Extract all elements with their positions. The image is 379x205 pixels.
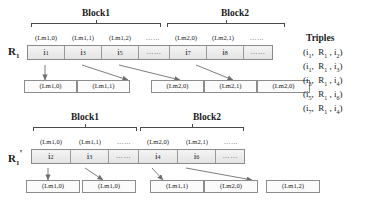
bottom-output-1[interactable]: (Lm1,0) <box>82 180 136 193</box>
bottom-block1-brace-tick <box>85 124 86 127</box>
top-cell-3[interactable]: …… <box>139 46 170 59</box>
bottom-cell-5-base: …… <box>223 153 238 160</box>
triple-1-subject-sub: 1 <box>309 67 312 73</box>
triple-2-subject-sub: 3 <box>309 81 312 87</box>
top-addr-1: (Lm1,1) <box>65 35 101 42</box>
bottom-output-2[interactable]: (Lm1,1) <box>150 180 204 193</box>
bottom-cell-4-sub: 6 <box>196 154 199 160</box>
triple-2-object-sub: 4 <box>337 81 340 87</box>
triple-3-subject-sub: 5 <box>309 95 312 101</box>
bottom-cell-2-base: …… <box>116 153 131 160</box>
bottom-addr-4: (Lm2,1) <box>178 139 216 146</box>
bottom-addr-3: (Lm2,0) <box>139 139 177 146</box>
bottom-addr-2: …… <box>110 139 138 146</box>
bottom-block2-brace <box>140 127 244 131</box>
triple-3-predicate-sub: 1 <box>324 95 327 101</box>
top-block2-brace-tick <box>226 20 227 23</box>
top-block1-brace <box>31 23 161 27</box>
top-cell-1-sub: 3 <box>83 50 86 56</box>
triples-title: Triples <box>306 33 334 43</box>
bottom-cell-2[interactable]: …… <box>109 150 139 163</box>
triple-3-object-sub: 6 <box>337 95 340 101</box>
bottom-block1-brace <box>33 127 137 131</box>
top-cell-6-base: …… <box>250 49 265 56</box>
top-cell-1[interactable]: i3 <box>65 46 102 59</box>
top-output-1[interactable]: (Lm1,1) <box>77 80 130 93</box>
bottom-cell-0[interactable]: i2 <box>32 150 71 163</box>
bottom-cell-4[interactable]: i6 <box>178 150 217 163</box>
bottom-row-label: R1' <box>8 149 22 167</box>
bottom-row-label-sub: 1 <box>16 159 20 167</box>
triple-row-0: (i1, R1 , i2) <box>303 48 343 59</box>
bottom-cell-5[interactable]: …… <box>216 150 244 163</box>
bottom-row-strip[interactable]: i2 i3 …… i4 i6 …… <box>31 149 245 164</box>
triple-4-object-sub: 4 <box>337 109 340 115</box>
top-addr-5: (Lm2,1) <box>205 35 241 42</box>
bottom-block1-title: Block1 <box>30 112 140 122</box>
bottom-cell-0-sub: 2 <box>51 154 54 160</box>
top-cell-5[interactable]: i8 <box>207 46 244 59</box>
top-cell-0-sub: 1 <box>46 50 49 56</box>
triple-1-object-sub: 3 <box>337 67 340 73</box>
bottom-arrows <box>48 168 252 180</box>
triple-2-predicate-sub: 1 <box>324 81 327 87</box>
triple-1-predicate-sub: 1 <box>324 67 327 73</box>
bottom-addr-1: (Lm1,1) <box>71 139 109 146</box>
top-cell-4[interactable]: i7 <box>170 46 207 59</box>
top-block1-brace-tick <box>96 20 97 23</box>
top-block2-brace <box>167 23 285 27</box>
top-output-2[interactable]: (Lm2,0) <box>151 80 204 93</box>
top-cell-0[interactable]: i1 <box>28 46 65 59</box>
bottom-addr-0: (Lm1,0) <box>32 139 70 146</box>
figure-canvas: Block1 Block2 R1 (Lm1,0) (Lm1,1) (Lm1,2)… <box>0 0 379 205</box>
top-cell-2[interactable]: i5 <box>102 46 139 59</box>
top-addr-6: …… <box>243 35 271 42</box>
top-output-0[interactable]: (Lm1,0) <box>24 80 77 93</box>
triple-row-2: (i3, R1 , i4) <box>303 76 343 87</box>
top-addr-0: (Lm1,0) <box>28 35 64 42</box>
triple-0-predicate-sub: 1 <box>324 53 327 59</box>
triple-0-object-sub: 2 <box>337 53 340 59</box>
top-cell-2-sub: 5 <box>120 50 123 56</box>
triple-row-4: (i7, R1 , i4) <box>303 104 343 115</box>
triple-0-subject-sub: 1 <box>309 53 312 59</box>
top-addr-2: (Lm1,2) <box>102 35 138 42</box>
top-arrows <box>45 65 233 80</box>
top-row-label-base: R <box>8 45 16 57</box>
top-cell-3-base: …… <box>146 49 161 56</box>
bottom-cell-3-sub: 4 <box>158 154 161 160</box>
triple-row-1: (i1, R1 , i3) <box>303 62 343 73</box>
bottom-row-label-prime: ' <box>19 148 22 159</box>
top-output-3[interactable]: (Lm2,1) <box>204 80 257 93</box>
top-addr-4: (Lm2,0) <box>168 35 204 42</box>
bottom-cell-3[interactable]: i4 <box>139 150 178 163</box>
top-row-label: R1 <box>8 46 19 60</box>
triple-row-3: (i5, R1 , i6) <box>303 90 343 101</box>
bottom-output-0[interactable]: (Lm1,0) <box>26 180 80 193</box>
bottom-row-label-base: R <box>8 152 16 164</box>
top-cell-4-sub: 7 <box>188 50 191 56</box>
bottom-output-3[interactable]: (Lm2,0) <box>204 180 258 193</box>
bottom-cell-1-sub: 3 <box>89 154 92 160</box>
top-row-strip[interactable]: i1 i3 i5 …… i7 i8 …… <box>27 45 273 60</box>
bottom-cell-1[interactable]: i3 <box>71 150 110 163</box>
bottom-output-4[interactable]: (Lm1,2) <box>266 180 320 193</box>
bottom-block2-brace-tick <box>192 124 193 127</box>
top-block2-title: Block2 <box>185 8 285 18</box>
bottom-addr-5: …… <box>217 139 245 146</box>
triple-4-predicate-sub: 1 <box>324 109 327 115</box>
top-cell-6[interactable]: …… <box>244 46 272 59</box>
bottom-block2-title: Block2 <box>152 112 262 122</box>
top-addr-3: …… <box>139 35 167 42</box>
triple-4-subject-sub: 7 <box>309 109 312 115</box>
top-block1-title: Block1 <box>28 8 164 18</box>
top-row-label-sub: 1 <box>16 52 20 60</box>
top-cell-5-sub: 8 <box>225 50 228 56</box>
